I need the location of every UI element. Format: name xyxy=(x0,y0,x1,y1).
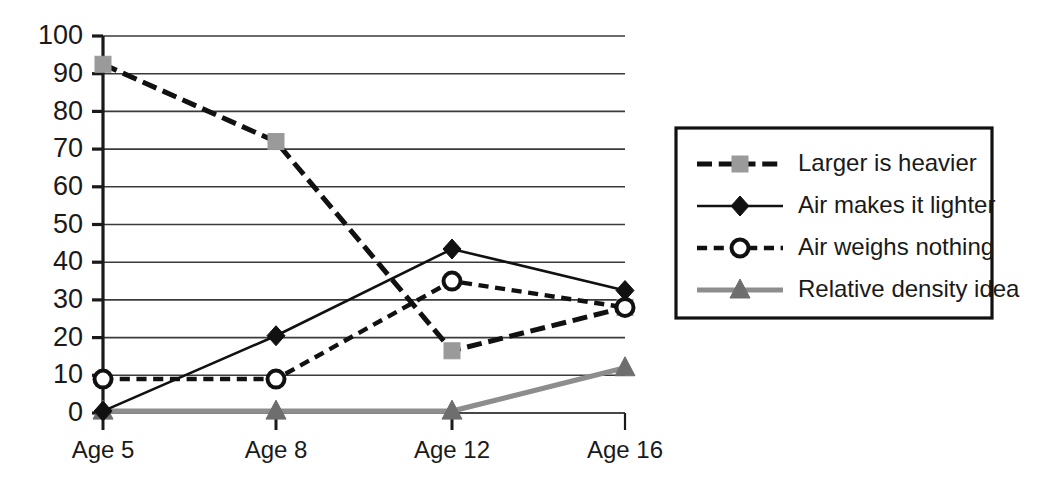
marker-circle xyxy=(268,371,285,388)
marker-circle xyxy=(732,240,749,257)
y-axis-tick-label: 80 xyxy=(53,96,83,126)
line-chart: 1009080706050403020100 Age 5Age 8Age 12A… xyxy=(0,0,1041,489)
legend-label: Larger is heavier xyxy=(798,149,977,176)
legend-label: Air weighs nothing xyxy=(798,233,994,260)
x-axis-tick-label: Age 12 xyxy=(414,436,490,463)
y-axis-tick-label: 40 xyxy=(53,246,83,276)
marker-square xyxy=(95,56,111,72)
marker-circle xyxy=(444,273,461,290)
y-axis-tick-label: 20 xyxy=(53,322,83,352)
legend-label: Air makes it lighter xyxy=(798,191,995,218)
x-axis-tick-label: Age 16 xyxy=(587,436,663,463)
x-axis-tick-label: Age 8 xyxy=(245,436,308,463)
y-axis-tick-label: 10 xyxy=(53,359,83,389)
y-axis-tick-label: 100 xyxy=(38,20,83,50)
marker-circle xyxy=(617,299,634,316)
y-axis-tick-label: 0 xyxy=(68,397,83,427)
y-axis-tick-label: 90 xyxy=(53,58,83,88)
y-axis-tick-label: 70 xyxy=(53,133,83,163)
x-axis-tick-label: Age 5 xyxy=(72,436,135,463)
marker-square xyxy=(732,156,748,172)
marker-square xyxy=(444,343,460,359)
marker-square xyxy=(268,134,284,150)
y-axis-tick-label: 60 xyxy=(53,171,83,201)
legend-label: Relative density idea xyxy=(798,275,1020,302)
marker-circle xyxy=(95,371,112,388)
y-axis-tick-label: 30 xyxy=(53,284,83,314)
chart-container: 1009080706050403020100 Age 5Age 8Age 12A… xyxy=(0,0,1041,489)
y-axis-tick-label: 50 xyxy=(53,209,83,239)
